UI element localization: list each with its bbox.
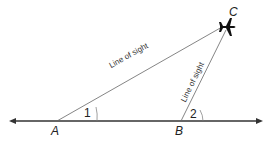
diagram-canvas	[0, 0, 267, 142]
angle-1-label: 1	[84, 107, 91, 119]
right-arrowhead-icon	[256, 118, 263, 124]
left-arrowhead-icon	[9, 118, 16, 124]
angle-2-label: 2	[190, 108, 197, 120]
point-b-label: B	[175, 125, 183, 137]
line-of-sight-bc	[181, 30, 226, 121]
point-c-label: C	[229, 6, 238, 18]
point-a-label: A	[51, 125, 59, 137]
airplane-icon	[219, 18, 236, 36]
angle-2-arc	[200, 110, 203, 121]
angle-1-arc	[96, 107, 97, 121]
